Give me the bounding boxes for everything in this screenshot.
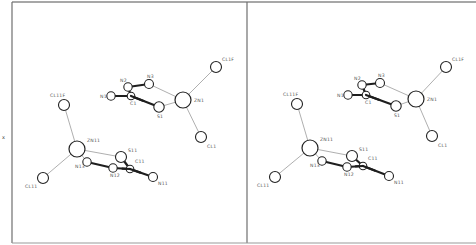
- atom-label-zn11: ZN11: [87, 138, 100, 143]
- atom-zn1: [408, 91, 424, 107]
- atom-cl11f: [292, 99, 303, 110]
- thick-bonds: [87, 84, 159, 177]
- atom-s1: [154, 102, 164, 112]
- atom-zn1: [175, 92, 191, 108]
- atom-label-n13: N13: [310, 163, 320, 168]
- atom-zn11: [302, 140, 318, 156]
- atom-label-cl11: CL11: [257, 183, 269, 188]
- atom-label-cl11f: CL11F: [50, 93, 65, 98]
- atom-n11: [149, 173, 158, 182]
- atom-label-n11: N11: [158, 181, 168, 186]
- atom-label-n2: N2: [354, 76, 361, 81]
- atom-n12: [343, 163, 351, 171]
- atom-label-n12: N12: [110, 173, 120, 178]
- atom-label-cl1f: CL1F: [222, 57, 234, 62]
- atom-label-s1: S1: [157, 114, 163, 119]
- atom-n11: [385, 172, 394, 181]
- atom-label-n2: N2: [120, 78, 127, 83]
- atom-label-n12: N12: [344, 172, 354, 177]
- atom-label-c11: C11: [135, 159, 145, 164]
- atom-s11: [347, 151, 358, 162]
- atom-label-cl11: CL11: [25, 184, 37, 189]
- atom-cl11: [270, 172, 281, 183]
- frame: [12, 2, 476, 243]
- atom-label-n13: N13: [75, 164, 85, 169]
- atom-n2: [358, 81, 366, 89]
- atom-n2: [124, 83, 132, 91]
- atom-label-c1: C1: [130, 101, 137, 106]
- atom-cl11: [38, 173, 49, 184]
- atom-cl1f: [441, 62, 452, 73]
- atom-label-n3: N3: [147, 74, 154, 79]
- atom-label-cl1: CL1: [438, 143, 447, 148]
- left-view: N1C1N2N3S1ZN1CL1FCL1CL11FZN11CL11N13N12C…: [25, 57, 234, 189]
- atom-label-c11: C11: [368, 156, 378, 161]
- atom-cl1: [427, 131, 438, 142]
- atom-label-cl1f: CL1F: [452, 57, 464, 62]
- atom-label-c1: C1: [365, 100, 372, 105]
- atom-n1: [344, 91, 352, 99]
- side-mark: x: [2, 134, 5, 140]
- atom-label-zn1: ZN1: [427, 97, 437, 102]
- atom-label-s11: S11: [359, 147, 368, 152]
- atom-n3: [376, 79, 385, 88]
- atom-label-cl11f: CL11F: [283, 92, 298, 97]
- atom-label-s11: S11: [128, 148, 137, 153]
- atom-cl1f: [211, 62, 222, 73]
- atom-s1: [391, 101, 401, 111]
- atom-s11: [116, 152, 127, 163]
- stereo-diagram: x N1C1N2N3S1ZN1CL1FCL1CL11FZN11CL11N13N1…: [0, 0, 476, 245]
- atom-label-zn11: ZN11: [320, 137, 333, 142]
- atom-cl1: [196, 132, 207, 143]
- atom-label-n1: N1: [100, 94, 107, 99]
- atom-label-n1: N1: [337, 93, 344, 98]
- atom-n1: [107, 92, 115, 100]
- right-view: N1C1N2N3S1ZN1CL1FCL1CL11FZN11CL11N13N12C…: [257, 57, 464, 188]
- thick-bonds: [322, 83, 396, 176]
- atom-label-n11: N11: [394, 180, 404, 185]
- atom-label-zn1: ZN1: [194, 98, 204, 103]
- atom-n12: [109, 164, 117, 172]
- atom-zn11: [69, 141, 85, 157]
- atom-label-cl1: CL1: [207, 144, 216, 149]
- atom-cl11f: [59, 100, 70, 111]
- atom-n3: [145, 80, 154, 89]
- atom-label-n3: N3: [378, 73, 385, 78]
- atom-label-s1: S1: [394, 113, 400, 118]
